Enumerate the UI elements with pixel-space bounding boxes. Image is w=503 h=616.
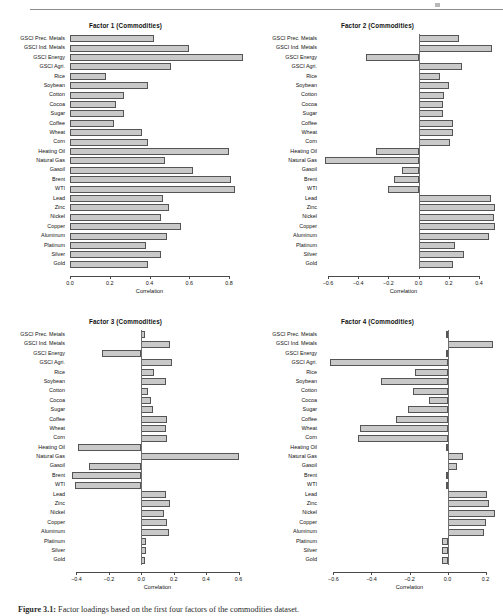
x-axis-tick-label: −0.2 [404, 576, 415, 582]
bar-series [252, 330, 503, 565]
x-axis-tick-label: −0.4 [353, 280, 364, 286]
x-axis-tick-label: 0.2 [445, 280, 453, 286]
bar [448, 500, 490, 507]
x-axis-tick-label: −0.4 [366, 576, 377, 582]
bar [70, 195, 163, 202]
bar [396, 416, 447, 423]
x-axis-tick-label: 0.2 [482, 576, 490, 582]
bar [419, 101, 443, 108]
x-axis-tick [239, 572, 240, 575]
x-axis-tick-label: −0.4 [71, 576, 82, 582]
bar [141, 529, 169, 536]
panel-factor-3: Factor 3 (Commodities) −0.4−0.20.00.20.4… [0, 310, 251, 605]
bar [366, 54, 419, 61]
x-axis-tick-label: 0.2 [170, 576, 178, 582]
bar [70, 82, 148, 89]
bar [70, 186, 235, 193]
x-axis-tick [229, 276, 230, 279]
plot-area-factor-2: −0.6−0.4−0.20.00.20.4CorrelationGSCI Pre… [252, 14, 503, 309]
bar [141, 378, 165, 385]
x-axis-tick [76, 572, 77, 575]
x-axis-tick-label: 0.4 [202, 576, 210, 582]
x-axis-title: Correlation [333, 584, 485, 590]
plot-area-factor-1: 0.00.20.40.60.8CorrelationGSCI Prec. Met… [0, 14, 251, 309]
x-axis-tick [388, 276, 389, 279]
bar [394, 176, 418, 183]
x-axis-tick-label: 0.2 [106, 280, 114, 286]
bar [419, 63, 463, 70]
bar [70, 242, 146, 249]
x-axis-tick-label: −0.2 [104, 576, 115, 582]
bar [376, 148, 418, 155]
bar [70, 129, 142, 136]
bar [70, 120, 114, 127]
bar-series [0, 34, 251, 269]
x-axis-tick [174, 572, 175, 575]
figure-caption: Figure 3.1: Factor loadings based on the… [18, 604, 488, 616]
x-axis-tick [358, 276, 359, 279]
bar [75, 482, 141, 489]
bar [419, 223, 496, 230]
bar [70, 261, 148, 268]
bar [448, 510, 496, 517]
bar [419, 204, 496, 211]
bar [419, 92, 445, 99]
bar [70, 167, 193, 174]
bar [70, 223, 181, 230]
bar [448, 453, 463, 460]
bar [419, 233, 490, 240]
plot-area-factor-3: −0.4−0.20.00.20.40.6CorrelationGSCI Prec… [0, 310, 251, 605]
bar [141, 425, 165, 432]
bar [419, 73, 440, 80]
bar-series [252, 34, 503, 269]
x-axis-tick [449, 276, 450, 279]
bar-series [0, 330, 251, 565]
bar [381, 378, 448, 385]
bar [419, 120, 454, 127]
bar [70, 92, 124, 99]
x-axis [328, 276, 479, 277]
bar [419, 45, 493, 52]
x-axis-tick [328, 276, 329, 279]
bar [360, 425, 448, 432]
x-axis [76, 572, 238, 573]
zero-reference-line [448, 330, 449, 565]
x-axis-tick [206, 572, 207, 575]
bar [102, 350, 141, 357]
x-axis-tick [109, 572, 110, 575]
x-axis-tick [419, 276, 420, 279]
x-axis-tick [448, 572, 449, 575]
bar [413, 388, 447, 395]
bar [388, 186, 418, 193]
bar [141, 397, 151, 404]
x-axis-tick [141, 572, 142, 575]
bar [141, 510, 164, 517]
bar [70, 176, 231, 183]
x-axis-tick-label: 0.0 [138, 576, 146, 582]
x-axis-tick [333, 572, 334, 575]
x-axis-tick [486, 572, 487, 575]
bar [419, 251, 464, 258]
panel-factor-2: Factor 2 (Commodities) −0.6−0.4−0.20.00.… [252, 14, 503, 309]
x-axis-tick [70, 276, 71, 279]
bar [141, 369, 154, 376]
bar [419, 82, 449, 89]
x-axis-tick-label: −0.6 [328, 576, 339, 582]
bar [70, 214, 161, 221]
bar [70, 148, 229, 155]
bar [448, 463, 458, 470]
x-axis-tick-label: −0.6 [323, 280, 334, 286]
x-axis-title: Correlation [328, 288, 479, 294]
bar [70, 101, 116, 108]
x-axis-tick [479, 276, 480, 279]
bar [419, 129, 454, 136]
bar [419, 195, 491, 202]
plot-area-factor-4: −0.6−0.4−0.20.00.2CorrelationGSCI Prec. … [252, 310, 503, 605]
x-axis-tick-label: −0.2 [383, 280, 394, 286]
bar [70, 73, 106, 80]
bar [330, 359, 448, 366]
bar [325, 157, 419, 164]
caption-text: Factor loadings based on the first four … [58, 605, 299, 614]
panel-factor-4: Factor 4 (Commodities) −0.6−0.4−0.20.00.… [252, 310, 503, 605]
bar [141, 359, 172, 366]
